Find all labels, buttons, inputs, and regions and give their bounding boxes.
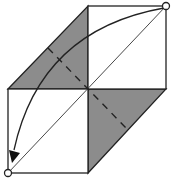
corner-marker-bottom <box>5 170 12 177</box>
diagram-canvas <box>0 0 176 179</box>
origami-diagram <box>0 0 176 179</box>
shaded-flap-bottom <box>88 89 166 173</box>
corner-marker-top <box>163 3 170 10</box>
